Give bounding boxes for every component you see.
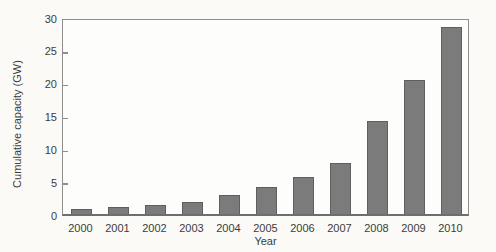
x-tick-label: 2002	[135, 222, 175, 234]
y-tick-label: 20	[26, 79, 57, 90]
bar-2007	[330, 163, 351, 214]
y-tick-label: 0	[26, 211, 57, 222]
y-tick-label: 5	[26, 178, 57, 189]
y-tick-mark	[63, 118, 68, 119]
y-tick-mark	[63, 52, 68, 53]
x-tick-label: 2009	[394, 222, 434, 234]
bar-2000	[71, 209, 92, 214]
y-tick-mark	[63, 151, 68, 152]
y-tick-mark	[63, 183, 68, 184]
x-tick-label: 2007	[320, 222, 360, 234]
y-tick-label: 10	[26, 145, 57, 156]
y-tick-label: 30	[26, 14, 57, 25]
bar-2003	[182, 202, 203, 214]
bar-2001	[108, 207, 129, 214]
bar-chart-figure: Cumulative capacity (GW) 051015202530 20…	[0, 0, 496, 252]
bar-2002	[145, 205, 166, 214]
bar-2004	[219, 195, 240, 214]
x-tick-label: 2006	[283, 222, 323, 234]
y-axis-title-text: Cumulative capacity (GW)	[11, 60, 23, 188]
plot-area	[62, 19, 469, 216]
x-axis-title: Year	[62, 235, 469, 247]
x-tick-label: 2005	[246, 222, 286, 234]
y-tick-label: 15	[26, 112, 57, 123]
x-tick-label: 2010	[431, 222, 471, 234]
x-tick-label: 2004	[209, 222, 249, 234]
bar-2009	[404, 80, 425, 214]
bar-2006	[293, 177, 314, 214]
bar-2008	[367, 121, 388, 214]
y-tick-label: 25	[26, 46, 57, 57]
x-tick-label: 2003	[172, 222, 212, 234]
x-tick-label: 2008	[357, 222, 397, 234]
bar-2010	[441, 27, 462, 214]
x-tick-label: 2001	[98, 222, 138, 234]
bar-2005	[256, 187, 277, 214]
y-tick-mark	[63, 85, 68, 86]
x-tick-label: 2000	[61, 222, 101, 234]
